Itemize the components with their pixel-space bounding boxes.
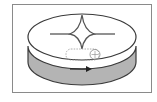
device-cylinder-icon xyxy=(0,0,157,102)
